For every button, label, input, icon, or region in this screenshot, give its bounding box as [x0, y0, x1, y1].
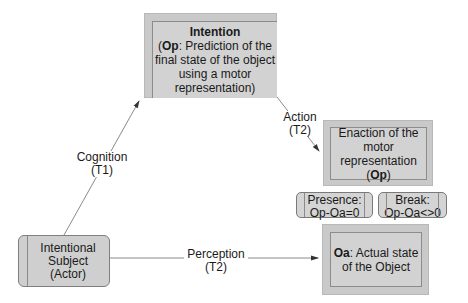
actual-state-line1-rest: : Actual state [350, 246, 419, 260]
intention-line1-rest: : Prediction of the [179, 39, 272, 53]
actual-state-oa: Oa [334, 246, 350, 260]
actual-state-inner-panel: Oa: Actual state of the Object [330, 232, 422, 287]
intention-op: Op [162, 39, 179, 53]
actor-line2: Subject [48, 255, 88, 268]
actor-line3: (Actor) [50, 268, 86, 281]
break-node[interactable]: Break: Op-Oa<>0 [378, 192, 447, 218]
intention-line4: representation) [175, 81, 256, 95]
actual-state-node[interactable]: Oa: Actual state of the Object [322, 224, 429, 295]
actor-node[interactable]: Intentional Subject (Actor) [18, 235, 110, 287]
enaction-line3: representation [340, 154, 417, 168]
break-line2: Op-Oa<>0 [379, 207, 446, 220]
enaction-line1: Enaction of the [338, 126, 418, 140]
intention-inner-panel: Intention (Op: Prediction of the final s… [152, 21, 277, 98]
action-label-time: (T2) [280, 124, 320, 137]
enaction-inner-panel: Enaction of the motor representation (Op… [330, 127, 427, 180]
intention-line1: (Op: Prediction of the [158, 39, 272, 53]
cognition-label-time: (T1) [75, 164, 129, 177]
intention-node[interactable]: Intention (Op: Prediction of the final s… [144, 13, 277, 98]
intention-title: Intention [190, 25, 241, 39]
presence-line2: Op-Oa=0 [297, 207, 372, 220]
presence-node[interactable]: Presence: Op-Oa=0 [296, 192, 373, 218]
intention-line3: using a motor [179, 67, 252, 81]
actual-state-line1: Oa: Actual state [334, 246, 419, 260]
enaction-node[interactable]: Enaction of the motor representation (Op… [323, 120, 433, 186]
perception-label: Perception (T2) [184, 248, 248, 274]
actual-state-line2: of the Object [342, 260, 410, 274]
actor-line1: Intentional [40, 242, 95, 255]
action-label: Action (T2) [279, 111, 321, 137]
enaction-line2: motor [363, 140, 394, 154]
enaction-line4: (Op) [366, 168, 391, 182]
intention-line2: final state of the object [155, 53, 275, 67]
cognition-label: Cognition (T1) [74, 151, 130, 177]
enaction-op: Op [370, 168, 387, 182]
perception-label-time: (T2) [185, 261, 247, 274]
